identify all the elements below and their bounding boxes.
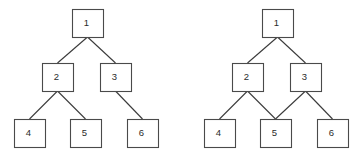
graph-node[interactable]: 5 [261,120,292,148]
node-label: 4 [216,127,221,138]
graph-node[interactable]: 2 [43,64,74,92]
graph-node[interactable]: 3 [101,64,132,92]
diagram-canvas: 123456123456 [0,0,363,159]
node-label: 2 [54,71,59,82]
graph-edge [88,37,116,63]
graph-edge [220,91,248,119]
graph-node[interactable]: 3 [291,64,322,92]
graph-edge [276,91,306,119]
node-label: 1 [84,17,89,28]
graph-edge [248,37,278,63]
graph-edge [58,91,86,119]
left-graph-nodes: 123456 [15,10,159,148]
node-label: 6 [139,127,144,138]
graph-diagram-figure: 123456123456 [0,0,363,159]
graph-edge [58,37,88,63]
node-label: 3 [112,71,117,82]
nodes-layer: 123456123456 [15,10,349,148]
graph-edge [278,37,306,63]
graph-node[interactable]: 5 [71,120,102,148]
node-label: 2 [244,71,249,82]
node-label: 4 [26,127,31,138]
edges-layer [30,37,333,119]
node-label: 5 [272,127,277,138]
graph-node[interactable]: 4 [15,120,46,148]
graph-edge [30,91,58,119]
graph-node[interactable]: 1 [263,10,294,38]
graph-node[interactable]: 1 [73,10,104,38]
node-label: 6 [329,127,334,138]
graph-edge [248,91,276,119]
graph-node[interactable]: 6 [318,120,349,148]
node-label: 1 [274,17,279,28]
node-label: 5 [82,127,87,138]
graph-node[interactable]: 6 [128,120,159,148]
graph-edge [306,91,333,119]
graph-edge [116,91,143,119]
graph-node[interactable]: 2 [233,64,264,92]
node-label: 3 [302,71,307,82]
right-graph-nodes: 123456 [205,10,349,148]
graph-node[interactable]: 4 [205,120,236,148]
